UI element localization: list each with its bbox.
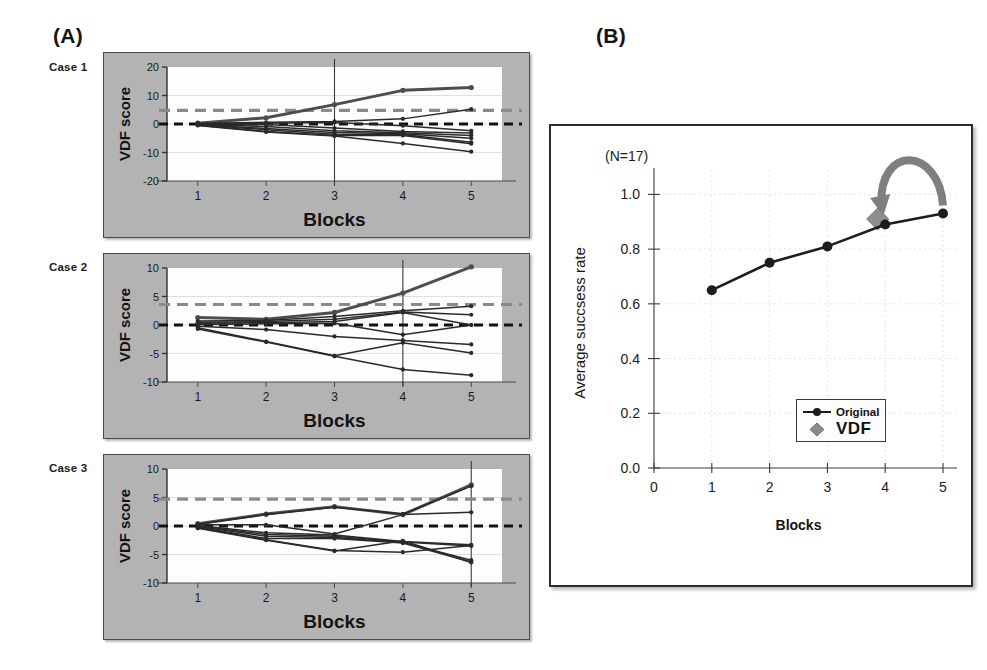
x-tick-label: 3 <box>331 189 338 203</box>
x-tick-label: 3 <box>331 390 338 404</box>
case-1-panel: 20100-10-2012345VDF scoreBlocks <box>103 52 530 238</box>
y-tick-label: 0.6 <box>621 296 641 312</box>
x-tick-label: 2 <box>263 189 270 203</box>
line-circle-marker-icon <box>802 406 832 418</box>
data-point <box>264 322 268 326</box>
x-tick-label: 4 <box>400 189 407 203</box>
x-axis-title: Blocks <box>303 209 365 230</box>
y-tick-label: 10 <box>147 262 159 274</box>
case-2-label: Case 2 <box>49 261 87 273</box>
data-point <box>469 85 474 90</box>
panel-b-legend[interactable]: Original VDF <box>796 399 886 442</box>
data-point <box>196 123 200 127</box>
legend-label-vdf: VDF <box>836 419 872 439</box>
y-axis-title: VDF score <box>116 489 133 563</box>
y-axis-title: VDF score <box>116 87 133 161</box>
arrow-arc <box>881 160 943 205</box>
y-tick-label: 20 <box>147 61 159 73</box>
y-axis-title: Average succsess rate <box>571 247 588 398</box>
y-tick-label: 1.0 <box>621 186 641 202</box>
data-point <box>332 536 336 540</box>
data-point <box>880 220 890 230</box>
data-point <box>332 334 336 338</box>
case-2-chart: 1050-5-1012345VDF scoreBlocks <box>104 254 526 435</box>
x-tick-label: 0 <box>650 479 658 495</box>
case-3-chart: 1050-5-1012345VDF scoreBlocks <box>104 455 526 636</box>
data-point <box>401 310 405 314</box>
data-point <box>401 550 405 554</box>
y-tick-label: 0.0 <box>621 460 641 476</box>
case-2-panel: 1050-5-1012345VDF scoreBlocks <box>103 253 530 439</box>
data-point <box>401 141 405 145</box>
data-point <box>264 340 268 344</box>
data-point <box>196 327 200 331</box>
y-tick-label: 10 <box>147 463 159 475</box>
legend-item-vdf[interactable]: VDF <box>802 420 879 437</box>
data-point <box>332 321 336 325</box>
data-point <box>401 117 405 121</box>
data-point <box>938 209 948 219</box>
x-tick-label: 4 <box>400 390 407 404</box>
case-3-panel: 1050-5-1012345VDF scoreBlocks <box>103 454 530 640</box>
legend-item-original[interactable]: Original <box>802 403 879 420</box>
data-point <box>264 513 268 517</box>
data-point <box>332 134 336 138</box>
data-point <box>469 560 473 564</box>
data-point <box>401 124 405 128</box>
data-point <box>264 115 269 120</box>
y-tick-label: -10 <box>143 147 159 159</box>
data-point <box>400 88 405 93</box>
data-point <box>469 323 473 327</box>
x-tick-label: 2 <box>263 390 270 404</box>
y-tick-label: 0.4 <box>621 351 641 367</box>
data-point <box>332 354 336 358</box>
y-tick-label: 5 <box>153 492 159 504</box>
data-point <box>469 510 473 514</box>
y-tick-label: -5 <box>149 549 159 561</box>
data-point <box>765 258 775 268</box>
legend-label-original: Original <box>836 406 879 418</box>
data-point <box>332 505 336 509</box>
data-point <box>401 333 405 337</box>
data-point <box>264 327 268 331</box>
data-point <box>822 241 832 251</box>
panel-b-letter: (B) <box>596 24 626 48</box>
data-point <box>469 142 473 146</box>
data-point <box>469 351 473 355</box>
curved-transfer-arrow <box>870 160 943 216</box>
y-tick-label: 0 <box>153 118 159 130</box>
data-point <box>469 304 473 308</box>
data-point <box>469 313 473 317</box>
y-tick-label: -5 <box>149 348 159 360</box>
x-axis-title: Blocks <box>303 410 365 431</box>
x-axis-title: Blocks <box>776 517 822 533</box>
case-3-label: Case 3 <box>49 462 87 474</box>
panel-a-letter: (A) <box>53 24 83 48</box>
data-point <box>332 120 336 124</box>
data-point <box>332 549 336 553</box>
x-tick-label: 4 <box>881 479 889 495</box>
y-tick-label: -10 <box>143 376 159 388</box>
data-point <box>401 367 405 371</box>
data-point <box>401 513 405 517</box>
sample-size-annotation: (N=17) <box>605 148 648 164</box>
data-point <box>469 264 474 269</box>
y-tick-label: 10 <box>147 90 159 102</box>
figure-root: (A) (B) Case 1 20100-10-2012345VDF score… <box>0 0 987 670</box>
case-1-chart: 20100-10-2012345VDF scoreBlocks <box>104 53 526 234</box>
x-tick-label: 5 <box>468 189 475 203</box>
y-tick-label: -20 <box>143 175 159 187</box>
y-tick-label: 0 <box>153 319 159 331</box>
x-tick-label: 2 <box>766 479 774 495</box>
diamond-marker-icon <box>802 420 832 438</box>
data-point <box>401 341 405 345</box>
x-tick-label: 3 <box>824 479 832 495</box>
data-point <box>196 526 200 530</box>
x-tick-label: 1 <box>194 189 201 203</box>
x-tick-label: 2 <box>263 591 270 605</box>
y-tick-label: -10 <box>143 577 159 589</box>
x-axis-title: Blocks <box>303 611 365 632</box>
data-point <box>401 133 405 137</box>
data-point <box>264 538 268 542</box>
data-point <box>469 150 473 154</box>
